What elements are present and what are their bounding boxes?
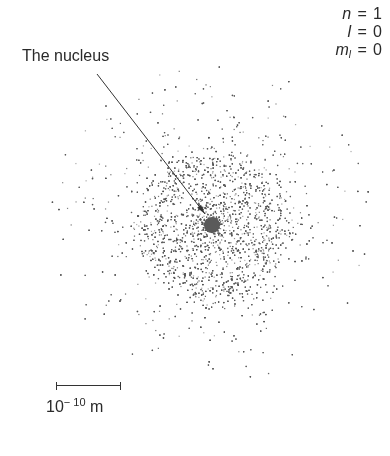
scale-bar-line [56, 385, 121, 386]
quantum-number-l: l=0 [348, 23, 382, 41]
quantum-number-n: n=1 [342, 5, 382, 23]
scale-label: 10− 10 m [46, 396, 103, 416]
nucleus-label: The nucleus [22, 47, 109, 65]
quantum-number-ml: ml=0 [336, 41, 382, 64]
scale-bar [56, 382, 121, 390]
scale-bar-tick-right [120, 382, 121, 390]
scale-bar-tick-left [56, 382, 57, 390]
